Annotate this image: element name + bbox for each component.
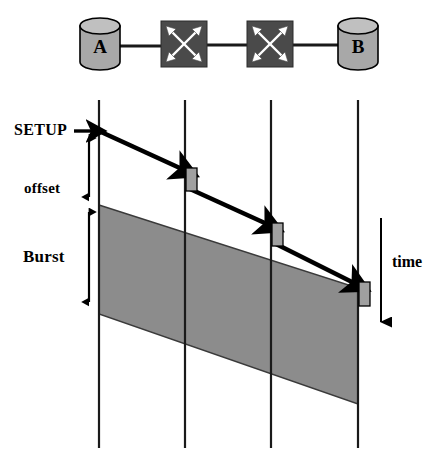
processing-box-switch2 [272,223,283,246]
burst-region [99,205,358,404]
processing-box-b [359,282,370,306]
figure-canvas: A B [0,0,445,456]
burst-label: Burst [23,247,65,267]
time-label: time [392,253,422,271]
timing-diagram [0,0,445,456]
setup-hop-1 [99,131,182,169]
processing-box-switch1 [186,168,197,191]
setup-label: SETUP [14,121,67,139]
setup-hop-2 [190,189,267,224]
offset-label: offset [24,180,60,197]
